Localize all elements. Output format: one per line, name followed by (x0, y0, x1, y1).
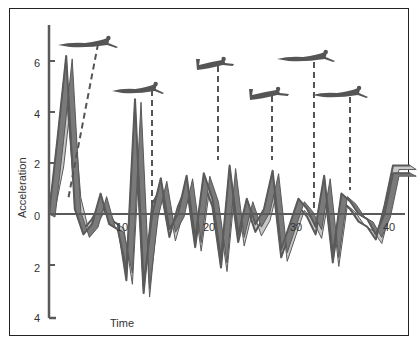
acceleration-chart: 10203040 642024 Time Acceleration (0, 0, 418, 342)
x-tick-label: 40 (383, 221, 395, 233)
swimmer-icon (277, 50, 335, 62)
swimmer-silhouettes (58, 36, 368, 100)
y-tick-label: 4 (34, 312, 40, 324)
swimmer-icon (249, 87, 289, 100)
y-tick-label: 2 (34, 158, 40, 170)
y-axis-title: Acceleration (16, 157, 28, 218)
x-tick-label: 10 (116, 221, 128, 233)
x-axis-title: Time (110, 317, 134, 329)
x-tick-label: 20 (203, 221, 215, 233)
data-ribbons (49, 56, 416, 297)
swimmer-icon (112, 82, 164, 94)
swimmer-icon (58, 36, 118, 48)
y-tick-labels: 642024 (34, 57, 40, 324)
y-tick-label: 6 (34, 57, 40, 69)
y-tick-label: 4 (34, 108, 40, 120)
y-tick-label: 0 (34, 210, 40, 222)
dark-ribbon (49, 56, 416, 289)
swimmer-icon (196, 57, 234, 70)
swimmer-icon (312, 86, 368, 98)
y-tick-label: 2 (34, 262, 40, 274)
x-tick-label: 30 (290, 221, 302, 233)
